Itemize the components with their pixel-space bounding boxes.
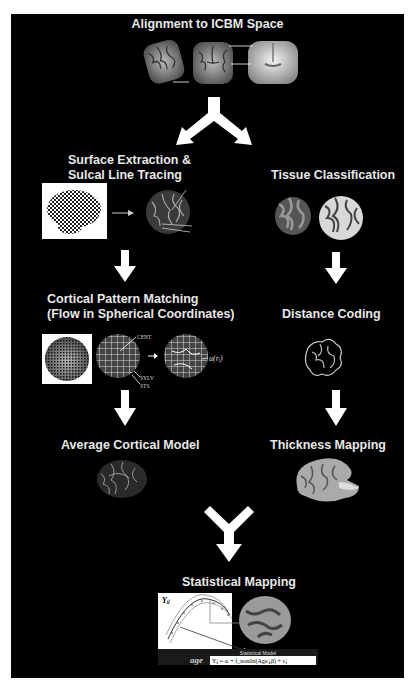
tissue-title: Tissue Classification [271,168,395,183]
flow-label: u(rᵢ) [209,354,223,363]
fork-arrow-icon [168,97,263,147]
surface-title-line2: Sulcal Line Tracing [68,168,182,183]
distance-title: Distance Coding [282,307,381,322]
sts-label: STS [140,383,149,389]
alignment-title: Alignment to ICBM Space [11,17,404,32]
mri-slices-image [143,38,303,88]
down-arrow-icon [325,390,347,426]
statistical-title: Statistical Mapping [182,575,296,590]
pattern-title-line1: Cortical Pattern Matching [47,292,198,307]
thickness-title: Thickness Mapping [270,438,386,453]
down-arrow-icon [325,252,347,284]
tissue-brain-images [273,192,373,244]
sylv-label: SYLV [140,375,154,381]
surface-title-line1: Surface Extraction & [68,153,191,168]
average-title: Average Cortical Model [61,438,199,453]
model-label: Statistical Model [240,650,276,656]
arrow-right-icon [112,210,134,216]
average-brain-image [95,458,150,503]
equation: Yᵢⱼ = αᵢ + f_nonlin(Ageᵢⱼ,β) + εᵢⱼ [212,658,287,665]
mesh-brain-image [42,183,107,239]
cent-label: CENT [137,334,152,340]
pattern-title-line2: (Flow in Spherical Coordinates) [47,307,235,322]
sulcal-brain-image [142,186,198,238]
down-arrow-icon [114,250,136,282]
statistical-figure: Yᵢⱼ Statistical Model age Yᵢⱼ = αᵢ + f_n… [158,593,318,665]
sphere-grid-image [42,334,92,384]
down-arrow-icon [114,390,136,426]
distance-brain-image [302,336,346,378]
merge-arrow-icon [204,506,254,564]
thickness-brain-image [293,456,361,506]
flow-sphere-images: CENT SYLV STS u(rᵢ) [94,331,244,389]
x-axis-label: age [190,655,203,665]
